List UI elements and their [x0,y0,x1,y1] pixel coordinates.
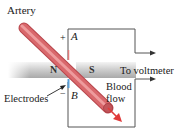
north-pole-label: N [50,65,57,75]
blood-flow-arrow-icon [108,108,122,122]
point-b-label: B [71,90,78,101]
south-pole-label: S [89,65,95,75]
blood-label: Blood [106,82,132,93]
voltmeter-arrow-bottom-icon [150,77,156,82]
to-voltmeter-label: To voltmeter [120,66,174,77]
flow-label: flow [106,94,125,105]
voltmeter-arrow-top-icon [150,51,156,56]
blood-flow-meter-diagram: Artery + A N S To voltmeter − B Electrod… [0,0,182,136]
plus-sign: + [60,33,66,43]
point-a-label: A [71,31,78,42]
electrodes-label: Electrodes [4,94,48,105]
artery-label: Artery [7,5,36,16]
minus-sign: − [60,89,66,99]
